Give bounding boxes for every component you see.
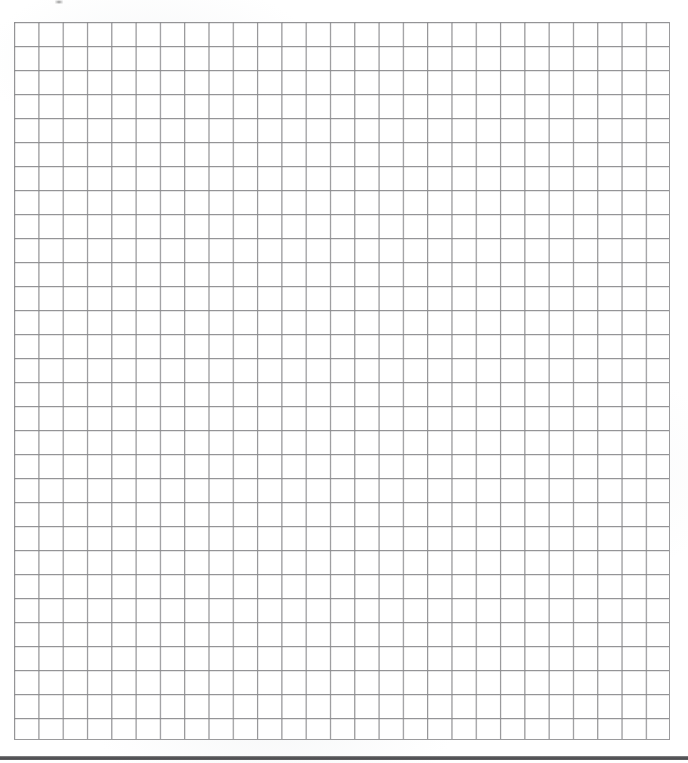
worksheet-page bbox=[0, 0, 688, 763]
footer-divider bbox=[0, 756, 688, 760]
grid-ink-overlay bbox=[14, 22, 669, 739]
graph-paper-grid[interactable] bbox=[14, 22, 670, 740]
scan-speck-artifact bbox=[55, 0, 63, 4]
